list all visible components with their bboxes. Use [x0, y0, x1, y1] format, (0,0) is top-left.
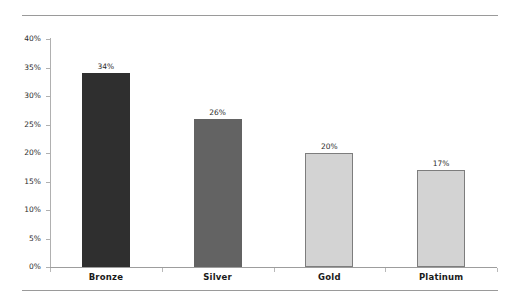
y-axis-tick-label: 0% — [29, 262, 41, 271]
x-axis-label-bronze: Bronze — [66, 272, 146, 282]
bar-gold[interactable] — [305, 153, 353, 267]
bar-silver[interactable] — [194, 119, 242, 267]
x-axis-label-silver: Silver — [178, 272, 258, 282]
bar-value-label: 20% — [309, 142, 349, 151]
x-axis-label-gold: Gold — [289, 272, 369, 282]
y-axis-tick-label: 5% — [29, 234, 41, 243]
x-axis-tick-mark — [162, 268, 163, 272]
bar-platinum[interactable] — [417, 170, 465, 267]
x-axis-tick-mark — [50, 268, 51, 272]
y-axis-tick-label: 25% — [24, 120, 41, 129]
bar-value-label: 17% — [421, 159, 461, 168]
bar-chart-figure: 0%5%10%15%20%25%30%35%40% BronzeSilverGo… — [0, 0, 520, 305]
y-axis-tick-label: 35% — [24, 63, 41, 72]
plot-area — [50, 39, 497, 267]
top-divider-rule — [22, 15, 498, 16]
bottom-divider-rule — [22, 290, 498, 291]
x-axis-tick-mark — [385, 268, 386, 272]
bar-bronze[interactable] — [82, 73, 130, 267]
y-axis-tick-label: 40% — [24, 34, 41, 43]
x-axis-tick-mark — [274, 268, 275, 272]
y-axis-tick-label: 20% — [24, 148, 41, 157]
bar-value-label: 26% — [198, 108, 238, 117]
y-axis-tick-label: 10% — [24, 205, 41, 214]
y-axis-tick-label: 30% — [24, 91, 41, 100]
y-axis-tick-label: 15% — [24, 177, 41, 186]
bar-value-label: 34% — [86, 62, 126, 71]
x-axis-tick-mark — [497, 268, 498, 272]
x-axis-label-platinum: Platinum — [401, 272, 481, 282]
